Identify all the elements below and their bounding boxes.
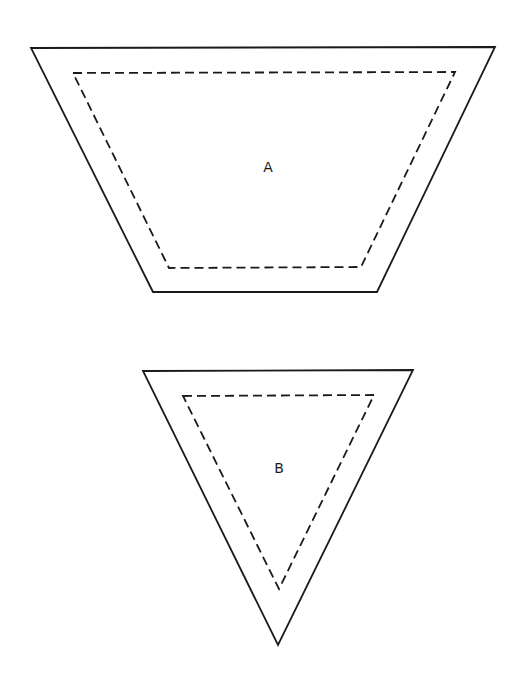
pattern-diagram: A B (0, 0, 506, 686)
piece-a-label: A (263, 159, 273, 175)
piece-b-cutting-line (143, 370, 413, 645)
piece-b-label: B (274, 460, 284, 476)
pattern-piece-b: B (143, 370, 413, 645)
piece-b-seam-line (183, 395, 374, 589)
pattern-piece-a: A (31, 47, 495, 292)
